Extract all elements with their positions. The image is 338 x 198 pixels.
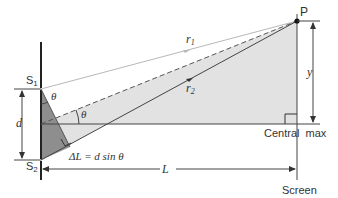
label-theta-top: θ	[51, 91, 56, 102]
label-S1: S1	[26, 75, 38, 88]
label-S2-sub: 2	[33, 165, 37, 174]
d-arrowhead-bottom	[19, 152, 25, 159]
label-r1: r1	[186, 33, 195, 47]
label-r2: r2	[186, 82, 195, 96]
label-y: y	[307, 66, 312, 78]
d-arrowhead-top	[19, 90, 25, 97]
label-central-max: Central max	[264, 128, 326, 139]
L-arrowhead-left	[42, 166, 49, 172]
label-screen: Screen	[282, 185, 317, 196]
L-arrowhead-right	[289, 166, 296, 172]
label-path-difference: ΔL = d sin θ	[69, 151, 124, 162]
label-L: L	[162, 163, 169, 175]
label-r2-sub: 2	[191, 87, 195, 96]
label-P: P	[300, 6, 308, 18]
label-theta-mid: θ	[81, 109, 86, 120]
y-arrowhead-top	[310, 22, 316, 29]
y-arrowhead-bottom	[310, 116, 316, 123]
r1-arrowhead	[183, 50, 190, 53]
label-S2: S2	[26, 161, 38, 174]
label-d: d	[16, 117, 22, 129]
label-S1-sub: 1	[33, 79, 37, 88]
label-r1-sub: 1	[191, 38, 195, 47]
